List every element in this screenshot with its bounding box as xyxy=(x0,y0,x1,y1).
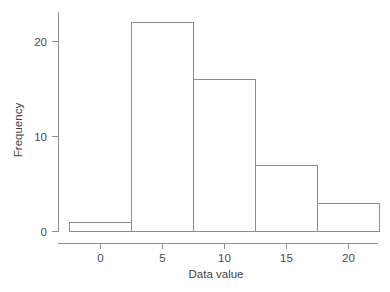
histogram-bar xyxy=(70,222,132,232)
x-tick-label: 0 xyxy=(97,252,103,264)
y-tick-label: 10 xyxy=(34,131,47,143)
histogram-bar xyxy=(256,165,318,232)
histogram-plot: 01020 05101520 Data value Frequency xyxy=(0,0,390,292)
histogram-bar xyxy=(132,23,194,232)
histogram-figure: 01020 05101520 Data value Frequency xyxy=(0,0,390,292)
x-tick-label: 10 xyxy=(218,252,231,264)
x-tick-label: 20 xyxy=(342,252,355,264)
histogram-bars xyxy=(70,23,380,232)
histogram-bar xyxy=(194,80,256,232)
x-axis: 05101520 xyxy=(58,243,378,264)
y-axis-title: Frequency xyxy=(12,103,24,158)
y-tick-label: 20 xyxy=(34,36,47,48)
x-axis-ticks: 05101520 xyxy=(97,243,355,264)
x-tick-label: 15 xyxy=(280,252,293,264)
y-axis: 01020 xyxy=(34,12,58,238)
histogram-bar xyxy=(318,203,380,232)
x-tick-label: 5 xyxy=(159,252,165,264)
y-tick-label: 0 xyxy=(41,226,47,238)
y-axis-ticks: 01020 xyxy=(34,36,58,238)
x-axis-title: Data value xyxy=(189,268,244,280)
